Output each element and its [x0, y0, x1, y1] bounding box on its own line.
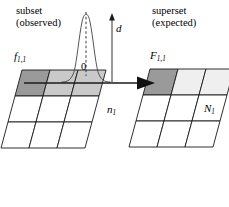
superset-heading-line2: (expected) — [152, 17, 196, 29]
observed-cell-label: f1,1 — [14, 50, 26, 64]
observed-grid — [1, 70, 106, 148]
expected-cell-label: F1,1 — [150, 49, 166, 63]
subset-heading-line2: (observed) — [16, 17, 61, 29]
expected-total-label-subscript: 1 — [211, 108, 215, 116]
subset-heading: subset (observed) — [16, 5, 61, 28]
observed-cell-label-subscript: 1,1 — [17, 56, 26, 64]
observed-total-label-subscript: 1 — [113, 109, 117, 117]
figure-container: subset (observed) superset (expected) f1… — [0, 0, 229, 207]
expected-total-label: N1 — [204, 102, 215, 116]
deviation-measure — [109, 13, 115, 82]
subset-heading-line1: subset — [16, 5, 61, 17]
expected-cell-label-subscript: 1,1 — [157, 55, 166, 63]
superset-heading: superset (expected) — [152, 5, 196, 28]
superset-heading-line1: superset — [152, 5, 196, 17]
curve-center-label: 0 — [81, 61, 86, 72]
deviation-arrowhead-icon — [109, 13, 115, 21]
deviation-label: d — [116, 22, 122, 34]
expected-cell-label-symbol: F — [150, 49, 157, 61]
observed-total-label: n1 — [107, 103, 116, 117]
